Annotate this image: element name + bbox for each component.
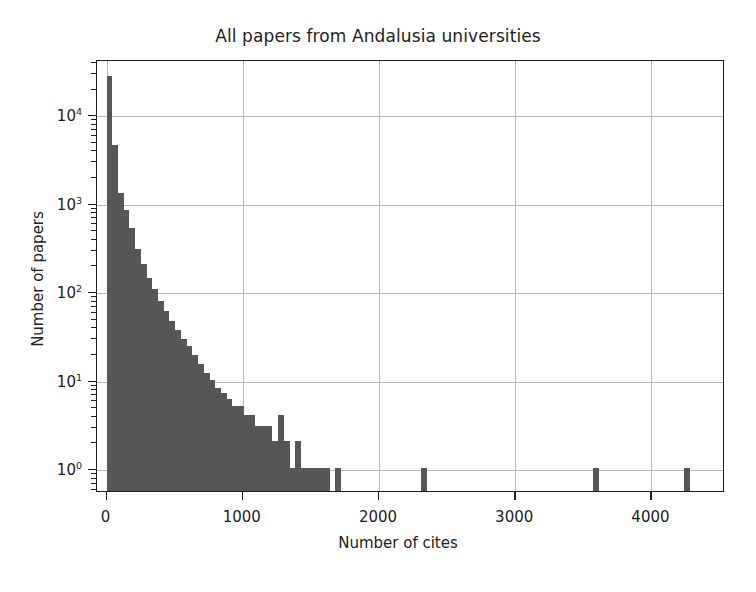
x-tick-label: 2000	[359, 508, 397, 526]
y-axis-title: Number of papers	[29, 179, 47, 379]
y-tick-mark	[88, 292, 96, 293]
x-tick-mark	[650, 492, 651, 500]
histogram-bar	[684, 468, 690, 491]
gridline-horizontal	[97, 293, 723, 294]
gridline-horizontal	[97, 205, 723, 206]
plot-area	[96, 60, 724, 492]
gridline-vertical	[379, 61, 380, 491]
y-axis: Number of papers 100101102103104	[0, 60, 96, 492]
histogram-bar	[421, 468, 427, 491]
figure-canvas: All papers from Andalusia universities N…	[0, 0, 756, 592]
y-tick-label: 101	[57, 371, 82, 390]
y-tick-label: 100	[57, 460, 82, 479]
x-axis-title: Number of cites	[0, 534, 756, 552]
histogram-bar	[335, 468, 341, 491]
y-tick-mark	[88, 115, 96, 116]
y-tick-label: 103	[57, 194, 82, 213]
x-tick-mark	[106, 492, 107, 500]
x-tick-label: 0	[101, 508, 111, 526]
x-tick-label: 4000	[631, 508, 669, 526]
histogram-bar	[593, 468, 599, 491]
y-tick-mark	[88, 204, 96, 205]
gridline-horizontal	[97, 116, 723, 117]
y-tick-mark	[88, 469, 96, 470]
x-tick-mark	[378, 492, 379, 500]
y-tick-label: 102	[57, 283, 82, 302]
x-axis: Number of cites 01000200030004000	[0, 492, 756, 552]
x-tick-label: 1000	[223, 508, 261, 526]
gridline-vertical	[515, 61, 516, 491]
x-axis-title-text: Number of cites	[338, 534, 458, 552]
x-tick-mark	[242, 492, 243, 500]
x-tick-mark	[514, 492, 515, 500]
y-tick-mark	[88, 381, 96, 382]
y-tick-label: 104	[57, 106, 82, 125]
x-tick-label: 3000	[495, 508, 533, 526]
gridline-vertical	[651, 61, 652, 491]
histogram-bar	[324, 468, 330, 491]
chart-title: All papers from Andalusia universities	[0, 26, 756, 46]
